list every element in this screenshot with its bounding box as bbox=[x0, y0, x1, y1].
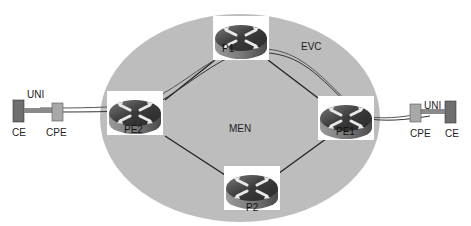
router-p1-label: P1 bbox=[222, 44, 234, 54]
router-p2-label: P2 bbox=[246, 203, 258, 213]
network-label: MEN bbox=[229, 124, 251, 134]
router-pe2-label: PE2 bbox=[124, 125, 143, 135]
evc-label: EVC bbox=[301, 42, 322, 52]
router-pe1-label: PE1 bbox=[336, 127, 355, 137]
left-cpe-label: CPE bbox=[46, 128, 67, 138]
men-diagram: MEN EVC P1 P2 PE1 PE2 UNI CE CPE UNI CE … bbox=[0, 0, 471, 226]
right-uni-label: UNI bbox=[424, 101, 441, 111]
diagram-graphics bbox=[0, 0, 471, 226]
right-cpe-label: CPE bbox=[410, 129, 431, 139]
left-uni-label: UNI bbox=[27, 90, 44, 100]
left-access bbox=[13, 100, 63, 122]
right-ce-label: CE bbox=[445, 129, 459, 139]
left-ce-label: CE bbox=[12, 128, 26, 138]
